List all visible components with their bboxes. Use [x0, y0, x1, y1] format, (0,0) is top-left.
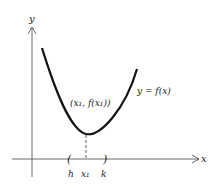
curve-label: y = f(x) — [136, 86, 171, 96]
interval-center-label: x₁ — [81, 169, 90, 179]
y-axis-label: y — [28, 13, 35, 24]
local-minimum-diagram: y x y = f(x) (x₁, f(x₁)) ( ) h x₁ k — [0, 0, 213, 190]
function-curve — [42, 48, 137, 134]
x-axis-label: x — [201, 153, 207, 164]
interval-left-bracket: ( — [67, 153, 72, 166]
interval-right-bracket: ) — [102, 153, 107, 166]
interval-left-label: h — [68, 169, 74, 179]
interval-right-label: k — [101, 169, 106, 179]
minimum-point-label: (x₁, f(x₁)) — [70, 98, 111, 108]
